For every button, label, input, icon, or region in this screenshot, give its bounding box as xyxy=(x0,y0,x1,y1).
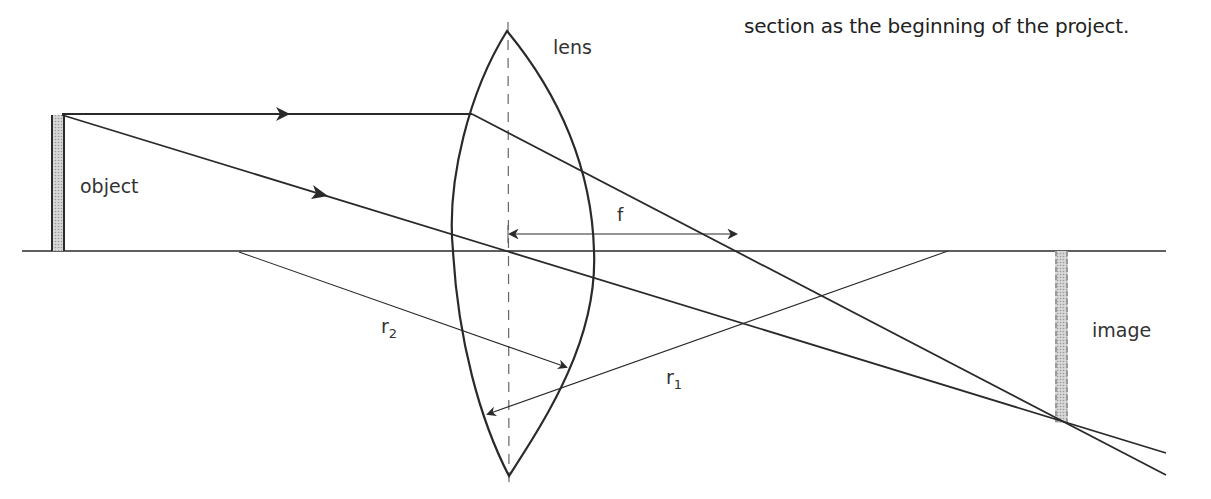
ray-center xyxy=(62,115,1166,453)
r2-label: r2 xyxy=(381,315,397,341)
radius-r2-arrow xyxy=(239,252,566,367)
object-arrow xyxy=(52,115,64,251)
focal-length-label: f xyxy=(617,204,624,225)
lens-ray-diagram: lens object image f r2 r1 xyxy=(0,0,1211,499)
r1-label: r1 xyxy=(666,366,682,392)
lens-center-line xyxy=(508,22,509,490)
radius-r1-arrow xyxy=(488,251,948,414)
image-label: image xyxy=(1092,319,1151,341)
lens-shape xyxy=(452,31,594,476)
image-arrow xyxy=(1055,251,1068,423)
lens-label: lens xyxy=(553,36,592,58)
object-label: object xyxy=(80,175,139,197)
